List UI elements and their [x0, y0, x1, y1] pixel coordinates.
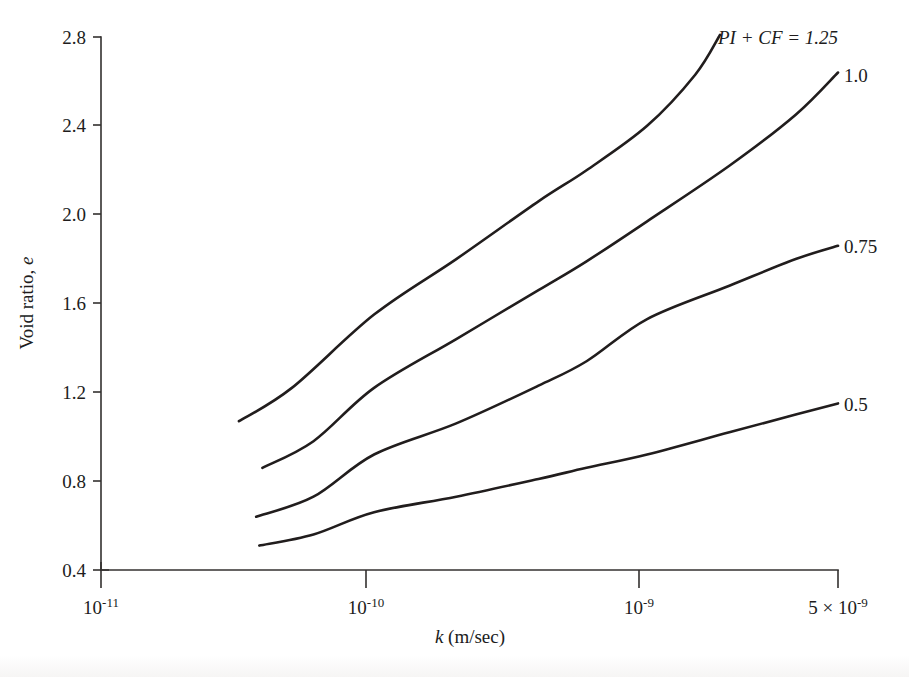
y-axis-title-symbol: e: [16, 256, 37, 264]
y-tick-label-0.4: 0.4: [62, 560, 86, 581]
x-tick-exponent: -11: [102, 595, 119, 610]
svg-text:10-9: 10-9: [624, 595, 654, 618]
y-tick-label-1.6: 1.6: [62, 293, 86, 314]
series-label-1.0: 1.0: [844, 65, 868, 86]
y-tick-label-0.8: 0.8: [62, 471, 86, 492]
x-tick-mantissa: 10: [83, 597, 102, 618]
series-label-0.5: 0.5: [844, 394, 868, 415]
y-tick-label-2.8: 2.8: [62, 27, 86, 48]
svg-text:10-10: 10-10: [348, 595, 384, 618]
y-tick-label-1.2: 1.2: [62, 382, 86, 403]
y-tick-label-2.0: 2.0: [62, 204, 86, 225]
x-tick-label-5e-9: 5 × 10-9: [808, 595, 868, 618]
x-tick-exponent: -9: [857, 595, 868, 610]
x-tick-label-1e-9: 10-9: [624, 595, 654, 618]
x-axis-title: k (m/sec): [435, 626, 505, 648]
x-tick-mantissa: 10: [624, 597, 643, 618]
svg-text:5 × 10-9: 5 × 10-9: [808, 595, 868, 618]
x-tick-label-1e-11: 10-11: [83, 595, 119, 618]
series-label-1.25: PI + CF = 1.25: [717, 27, 838, 48]
x-tick-prefix: 5 ×: [808, 597, 838, 618]
void-ratio-vs-permeability-chart: 2.8 2.4 2.0 1.6 1.2 0.8 0.4 10-11 10-10 …: [0, 0, 909, 677]
y-tick-label-2.4: 2.4: [62, 115, 86, 136]
x-tick-mantissa: 10: [348, 597, 367, 618]
curve-pi-cf-1.25: [239, 35, 720, 421]
x-tick-exponent: -10: [367, 595, 384, 610]
y-axis-title-text: Void ratio,: [16, 265, 37, 350]
y-axis-title: Void ratio, e: [16, 256, 37, 349]
x-tick-exponent: -9: [643, 595, 654, 610]
x-tick-mantissa: 10: [838, 597, 857, 618]
svg-text:10-11: 10-11: [83, 595, 119, 618]
series-label-1.25-text: PI + CF = 1.25: [717, 27, 838, 48]
x-axis-ticks: [101, 562, 838, 588]
figure-container: 2.8 2.4 2.0 1.6 1.2 0.8 0.4 10-11 10-10 …: [0, 0, 909, 677]
curves-group: [239, 35, 838, 546]
curve-pi-cf-1.0: [262, 73, 838, 468]
series-label-0.75: 0.75: [844, 236, 877, 257]
x-tick-label-1e-10: 10-10: [348, 595, 384, 618]
x-axis-title-units: (m/sec): [443, 626, 505, 648]
